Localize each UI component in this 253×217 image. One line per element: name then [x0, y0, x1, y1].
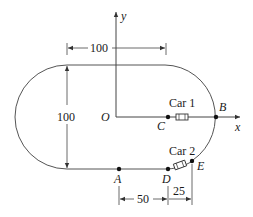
left-dimension-label: 100 [57, 110, 75, 124]
top-dimension-label: 100 [90, 41, 108, 55]
track-diagram: y x O 100 100 C B A D E Car 1 Car 2 50 2… [0, 0, 253, 217]
dimension-50-label: 50 [137, 192, 149, 206]
point-c [166, 115, 170, 119]
point-a [117, 167, 121, 171]
point-a-label: A [113, 172, 122, 186]
point-d [166, 167, 170, 171]
origin-label: O [101, 110, 110, 124]
car-2-icon [173, 160, 186, 170]
car-2-label: Car 2 [169, 144, 195, 158]
x-axis-label: x [234, 120, 241, 134]
point-e [190, 159, 194, 163]
point-c-label: C [157, 119, 166, 133]
car-1-icon [176, 114, 188, 120]
car-1-label: Car 1 [169, 96, 195, 110]
point-e-label: E [196, 159, 205, 173]
point-b [214, 115, 218, 119]
point-b-label: B [219, 100, 227, 114]
dimension-25-label: 25 [173, 184, 185, 198]
point-d-label: D [161, 172, 171, 186]
y-axis-label: y [120, 9, 127, 23]
